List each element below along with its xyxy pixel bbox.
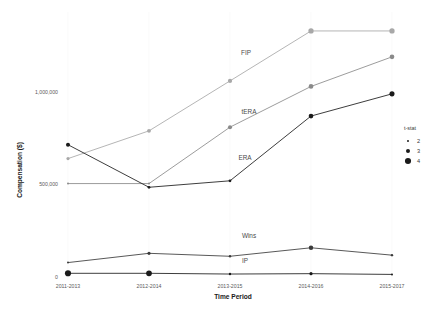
data-point <box>309 84 314 89</box>
x-tick-label: 2012-2014 <box>137 283 162 289</box>
x-axis-title: Time Period <box>214 293 252 300</box>
data-point <box>146 270 152 276</box>
data-point <box>309 272 312 275</box>
data-point <box>308 28 313 33</box>
data-point <box>147 252 150 255</box>
chart-background <box>0 0 447 313</box>
x-tick-label: 2014-2016 <box>299 283 324 289</box>
y-tick-label: 1,000,000 <box>35 89 58 95</box>
legend-label-2: 2 <box>417 138 420 144</box>
data-point <box>389 91 394 96</box>
data-point <box>229 179 232 182</box>
data-point <box>228 125 232 129</box>
series-label-era: ERA <box>238 154 252 161</box>
chart-container: 0500,0001,000,000 2011-20132012-20142013… <box>0 0 447 313</box>
data-point <box>66 157 69 160</box>
series-label-wins: Wins <box>242 232 256 239</box>
data-point <box>309 114 314 119</box>
legend-key-4 <box>405 158 411 164</box>
data-point <box>67 262 69 264</box>
series-label-ip: IP <box>242 257 248 264</box>
data-point <box>67 183 69 185</box>
series-label-tera: tERA <box>242 108 258 115</box>
data-point <box>147 129 151 133</box>
data-point <box>66 143 70 147</box>
data-point <box>229 255 231 257</box>
legend-label-3: 3 <box>417 148 420 154</box>
data-point <box>390 55 395 60</box>
legend-title: t-stat <box>404 125 416 131</box>
data-point <box>148 183 150 185</box>
legend-label-4: 4 <box>417 158 420 164</box>
data-point <box>229 273 231 275</box>
x-tick-label: 2013-2015 <box>218 283 243 289</box>
legend-key-3 <box>406 149 410 153</box>
y-tick-label: 0 <box>55 274 58 280</box>
x-tick-label: 2011-2013 <box>56 283 81 289</box>
legend-key-2 <box>407 140 409 142</box>
data-point <box>65 270 71 276</box>
data-point <box>391 273 393 275</box>
data-point <box>148 186 151 189</box>
y-tick-label: 500,000 <box>39 181 58 187</box>
compensation-line-chart: 0500,0001,000,000 2011-20132012-20142013… <box>0 0 447 313</box>
y-axis-title: Compensation ($) <box>16 142 24 198</box>
series-label-fip: FIP <box>241 49 251 56</box>
data-point <box>389 28 394 33</box>
data-point <box>391 254 393 256</box>
data-point <box>228 79 232 83</box>
data-point <box>309 246 313 250</box>
x-tick-label: 2015-2017 <box>380 283 405 289</box>
